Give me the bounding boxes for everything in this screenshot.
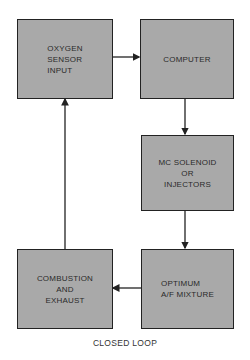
box-label: COMPUTER [163,54,210,65]
box-label: MC SOLENOID OR INJECTORS [158,157,216,190]
box-optimum-af-mixture: OPTIMUM A/F MIXTURE [141,249,234,329]
box-oxygen-sensor-input: OXYGEN SENSOR INPUT [17,19,113,99]
box-mc-solenoid-or-injectors: MC SOLENOID OR INJECTORS [141,135,234,211]
box-label: OXYGEN SENSOR INPUT [47,43,82,76]
box-label: OPTIMUM A/F MIXTURE [161,278,214,300]
diagram-caption: CLOSED LOOP [0,338,250,348]
box-label: COMBUSTION AND EXHAUST [37,273,93,306]
box-computer: COMPUTER [140,19,234,99]
box-combustion-and-exhaust: COMBUSTION AND EXHAUST [17,249,113,329]
